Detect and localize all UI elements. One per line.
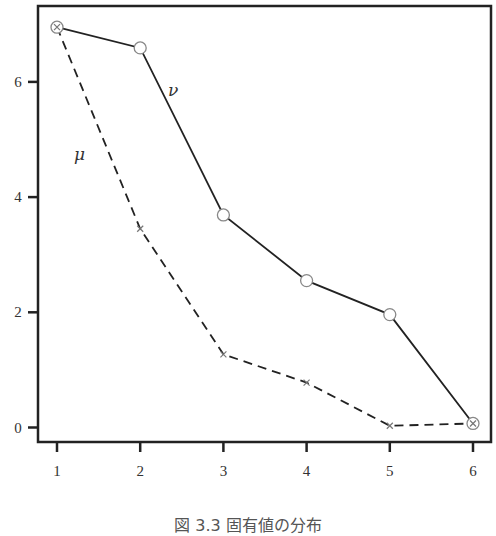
- y-tick-label: 4: [14, 189, 22, 205]
- x-axis: 123456: [53, 442, 477, 479]
- y-tick-label: 6: [14, 74, 22, 90]
- x-tick-label: 6: [469, 463, 477, 479]
- x-tick-label: 2: [136, 463, 144, 479]
- series-line-nu: [57, 27, 473, 423]
- x-tick-label: 5: [386, 463, 394, 479]
- series-line-mu: [57, 27, 473, 426]
- figure-caption: 図 3.3 固有値の分布: [0, 512, 496, 536]
- series-label-mu: μ: [74, 144, 85, 164]
- series-label-nu: ν: [168, 80, 178, 100]
- x-tick-label: 1: [53, 463, 61, 479]
- y-tick-label: 2: [14, 304, 22, 320]
- y-tick-label: 0: [14, 420, 22, 436]
- series-lines: [57, 27, 473, 426]
- plot-frame: [38, 6, 491, 442]
- x-marker: [387, 423, 393, 429]
- circle-marker: [301, 275, 313, 287]
- x-tick-label: 4: [303, 463, 311, 479]
- x-marker: [220, 351, 226, 357]
- y-axis: 0246: [14, 74, 38, 436]
- circle-marker: [217, 209, 229, 221]
- x-tick-label: 3: [220, 463, 228, 479]
- circle-marker: [134, 42, 146, 54]
- circle-marker: [384, 309, 396, 321]
